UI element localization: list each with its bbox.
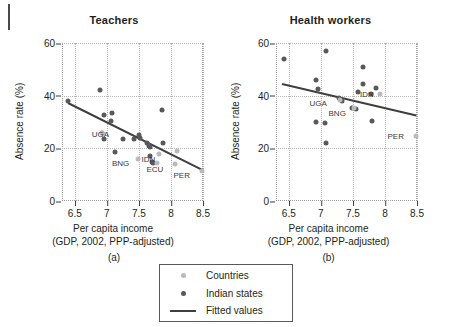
chart-panel-teachers: Teachers Absence rate (%) 6.577.588.5020…	[0, 0, 228, 265]
panel-a-y-axis	[62, 43, 63, 201]
panel-b-x-tick-label: 8	[382, 208, 388, 219]
chart-panel-health-workers: Health workers Absence rate (%) 6.577.58…	[228, 0, 453, 265]
panel-a-data-point	[157, 151, 162, 156]
panel-b-gridline-v	[353, 43, 354, 201]
legend-marker-dot-indian-states	[160, 291, 206, 296]
panel-b-gridline-h	[276, 43, 417, 44]
panel-b-data-point	[370, 118, 375, 123]
panel-b-y-tick-label: 20	[235, 143, 276, 154]
panel-a-y-tick-label: 20	[21, 143, 62, 154]
panel-b-gridline-v	[385, 43, 386, 201]
panel-a-data-point	[109, 118, 114, 123]
panel-b-data-point	[377, 92, 382, 97]
panel-b-data-point	[313, 120, 318, 125]
panel-a-gridline-h	[62, 43, 203, 44]
panel-b-data-point	[373, 85, 378, 90]
panel-a-point-label-uga: UGA	[92, 129, 109, 138]
panel-a-point-label-bng: BNG	[112, 158, 129, 167]
panel-b-data-point	[323, 141, 328, 146]
panel-b-y-tick-label: 40	[235, 90, 276, 101]
legend-label-countries: Countries	[206, 270, 249, 281]
panel-a-data-point	[135, 156, 140, 161]
panel-b-data-point	[338, 97, 343, 102]
panel-b-x-axis-label-line2: (GDP, 2002, PPP-adjusted)	[216, 235, 441, 248]
panel-b-data-point	[316, 87, 321, 92]
panel-a-y-tick-label: 40	[21, 90, 62, 101]
panel-b-x-axis-label-line1: Per capita income	[216, 222, 441, 235]
panel-b-data-point	[352, 105, 357, 110]
panel-a-data-point	[175, 148, 180, 153]
panel-b-point-label-idn: IDN	[360, 90, 374, 99]
panel-a-gridline-h	[62, 148, 203, 149]
panel-b-gridline-h	[276, 96, 417, 97]
panel-a-point-label-idn: IDN	[142, 154, 156, 163]
legend-marker-line-fitted-values	[160, 310, 206, 312]
panel-a-x-tick-label: 7	[104, 208, 110, 219]
panel-b-y-tick-label: 0	[235, 196, 276, 207]
panel-a-data-point	[199, 168, 204, 173]
panel-a-gridline-v	[171, 43, 172, 201]
panel-a-x-tick-label: 7.5	[132, 208, 146, 219]
panel-a-x-tick-label: 8	[168, 208, 174, 219]
chart-legend: Countries Indian states Fitted values	[159, 264, 293, 322]
panel-a-x-axis-label: Per capita income (GDP, 2002, PPP-adjust…	[0, 222, 227, 248]
panel-b-data-point	[323, 48, 328, 53]
panel-b-data-point	[322, 121, 327, 126]
panel-b-y-axis	[276, 43, 277, 201]
panel-a-data-point	[120, 137, 125, 142]
legend-item-countries: Countries	[160, 267, 292, 284]
panel-a-gridline-v	[139, 43, 140, 201]
panel-a-data-point	[109, 110, 114, 115]
panel-b-x-axis	[276, 200, 417, 201]
legend-label-indian-states: Indian states	[206, 288, 263, 299]
panel-a-data-point	[173, 162, 178, 167]
panel-b-x-axis-label: Per capita income (GDP, 2002, PPP-adjust…	[216, 222, 441, 248]
panel-a-gridline-v	[203, 43, 204, 201]
panel-b-plot-frame	[276, 43, 417, 201]
legend-item-fitted-values: Fitted values	[160, 302, 292, 319]
panel-b-x-tick-label: 8.5	[410, 208, 424, 219]
panel-a-x-axis-label-line2: (GDP, 2002, PPP-adjusted)	[0, 235, 227, 248]
panel-a-data-point	[101, 113, 106, 118]
panel-a-y-tick-label: 60	[21, 38, 62, 49]
panel-a-data-point	[131, 137, 136, 142]
panel-a-x-tick-label: 8.5	[196, 208, 210, 219]
legend-marker-dot-countries	[160, 273, 206, 278]
panel-b-data-point	[281, 56, 286, 61]
panel-b-x-tick-label: 7	[318, 208, 324, 219]
panel-a-gridline-v	[75, 43, 76, 201]
panel-b-caption: (b)	[216, 252, 441, 263]
panel-b-point-label-uga: UGA	[309, 98, 326, 107]
panel-a-data-point	[138, 135, 143, 140]
panel-b-gridline-v	[417, 43, 418, 201]
legend-item-indian-states: Indian states	[160, 285, 292, 302]
panel-b-data-point	[360, 64, 365, 69]
panel-a-data-point	[66, 98, 71, 103]
panel-a-point-label-per: PER	[173, 170, 189, 179]
panel-a-point-label-ecu: ECU	[146, 164, 163, 173]
panel-a-x-tick-label: 6.5	[68, 208, 82, 219]
panel-b-plot-area: 6.577.588.50204060UGABNGIDNPER	[276, 43, 417, 201]
panel-a-y-tick-label: 0	[21, 196, 62, 207]
panel-b-gridline-v	[289, 43, 290, 201]
panel-b-data-point	[413, 134, 418, 139]
panel-b-gridline-h	[276, 148, 417, 149]
panel-b-title: Health workers	[218, 14, 443, 26]
panel-a-plot-area: 6.577.588.50204060UGABNGIDNECUPER	[62, 43, 203, 201]
panel-b-data-point	[361, 81, 366, 86]
panel-a-data-point	[112, 150, 117, 155]
panel-b-y-tick-label: 60	[235, 38, 276, 49]
panel-a-title: Teachers	[0, 14, 228, 26]
panel-a-x-axis-label-line1: Per capita income	[0, 222, 227, 235]
panel-b-x-tick-label: 6.5	[282, 208, 296, 219]
panel-b-point-label-bng: BNG	[329, 108, 346, 117]
panel-a-data-point	[148, 145, 153, 150]
panel-a-data-point	[159, 108, 164, 113]
panel-a-x-axis	[62, 200, 203, 201]
legend-label-fitted-values: Fitted values	[206, 305, 263, 316]
panel-a-gridline-h	[62, 96, 203, 97]
panel-a-data-point	[98, 88, 103, 93]
panel-b-x-tick-label: 7.5	[346, 208, 360, 219]
panel-a-caption: (a)	[0, 252, 228, 263]
panel-b-point-label-per: PER	[387, 132, 403, 141]
